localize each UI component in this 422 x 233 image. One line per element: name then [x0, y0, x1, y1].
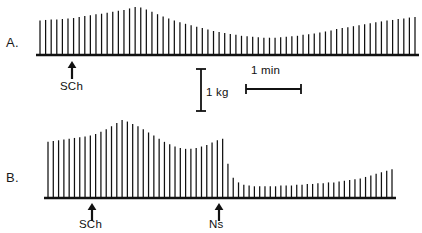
figure-container: A. SCh 1 kg 1 min B. SCh Ns	[0, 0, 422, 233]
time-calibration-bar	[243, 82, 305, 96]
force-calibration-label: 1 kg	[206, 86, 229, 98]
twitch-spikes	[40, 7, 415, 55]
sch-label-panel-b: SCh	[79, 218, 102, 230]
time-calibration-label: 1 min	[251, 64, 280, 76]
sch-label-panel-a: SCh	[60, 80, 83, 92]
sch-arrow-panel-a	[65, 60, 79, 80]
twitch-spikes	[48, 120, 392, 198]
panel-b-trace	[0, 110, 422, 233]
ns-label-panel-b: Ns	[209, 218, 223, 230]
